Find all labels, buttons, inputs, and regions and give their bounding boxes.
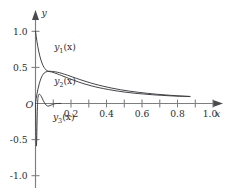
chart-figure: 1.0 0.5 -0.5 -1.0 0.2 0.4 0.6 0.8 1.0 O … bbox=[0, 0, 227, 195]
y-ticklabel-0p5: 0.5 bbox=[13, 62, 28, 73]
x-axis-label: x bbox=[215, 108, 221, 119]
y-axis-label: y bbox=[41, 7, 48, 18]
axes-group bbox=[32, 10, 223, 188]
curve-label-y3-arg: (x) bbox=[62, 111, 74, 122]
x-ticklabel-0p4: 0.4 bbox=[99, 108, 114, 119]
curve-label-y1-arg: (x) bbox=[64, 41, 76, 52]
x-axis-tick-labels: 0.2 0.4 0.6 0.8 1.0 bbox=[64, 108, 218, 119]
curve-label-y2-arg: (x) bbox=[64, 75, 76, 86]
function-plot: 1.0 0.5 -0.5 -1.0 0.2 0.4 0.6 0.8 1.0 O … bbox=[0, 0, 227, 195]
curve-label-y3: y3(x) bbox=[52, 111, 75, 125]
y-ticklabel-neg0p5: -0.5 bbox=[10, 134, 28, 145]
curve-label-y1: y1(x) bbox=[53, 41, 76, 55]
curve-label-y2: y2(x) bbox=[53, 75, 76, 89]
x-axis-arrowhead bbox=[213, 100, 223, 107]
y-ticklabel-1p0: 1.0 bbox=[13, 26, 28, 37]
curve-annotations: y1(x) y2(x) y3(x) bbox=[52, 41, 76, 125]
x-ticklabel-0p6: 0.6 bbox=[135, 108, 150, 119]
x-ticklabel-0p8: 0.8 bbox=[170, 108, 185, 119]
y-ticklabel-neg1p0: -1.0 bbox=[10, 170, 28, 181]
y-axis-arrowhead bbox=[32, 10, 39, 20]
origin-label: O bbox=[26, 99, 34, 110]
